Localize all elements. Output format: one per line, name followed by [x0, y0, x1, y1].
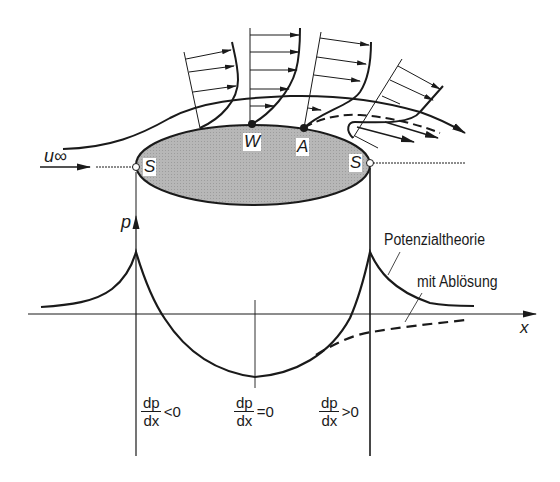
gradient-numerator: dp — [234, 394, 255, 411]
freestream-velocity-label: u∞ — [44, 146, 67, 167]
separation-pressure-curve — [316, 320, 466, 355]
inflection-point-label: W — [243, 133, 261, 151]
velocity-profile-1 — [184, 42, 238, 128]
x-axis-label: x — [520, 318, 529, 338]
separation-point-label: A — [296, 138, 309, 156]
flow-separation-diagram: u∞ S S W A p x Potenzialtheorie mit Ablö… — [0, 0, 560, 482]
gradient-numerator: dp — [319, 394, 340, 411]
potential-theory-legend: Potenzialtheorie — [384, 231, 485, 249]
gradient-label-negative: dp dx <0 — [141, 394, 181, 429]
front-stagnation-point — [133, 164, 140, 171]
rear-stagnation-point — [367, 160, 374, 167]
gradient-denominator: dx — [234, 411, 254, 429]
gradient-relation: =0 — [257, 403, 274, 420]
separation-point-A — [300, 124, 308, 132]
gradient-denominator: dx — [141, 411, 161, 429]
gradient-denominator: dx — [319, 411, 339, 429]
rear-stagnation-label: S — [349, 154, 362, 172]
velocity-profile-4-reversed — [348, 59, 443, 148]
potential-theory-leader — [388, 252, 400, 275]
gradient-relation: <0 — [164, 403, 181, 420]
gradient-relation: >0 — [342, 403, 359, 420]
gradient-label-positive: dp dx >0 — [319, 394, 359, 429]
gradient-numerator: dp — [141, 394, 162, 411]
pressure-axis-label: p — [121, 212, 131, 233]
flow-field — [40, 28, 465, 205]
separation-legend: mit Ablösung — [417, 273, 498, 291]
pressure-plot — [28, 168, 536, 456]
front-stagnation-label: S — [143, 158, 156, 176]
velocity-profile-3-at-A — [304, 32, 440, 133]
gradient-label-zero: dp dx =0 — [234, 394, 274, 429]
velocity-profile-2-at-W — [250, 28, 300, 124]
inflection-point-W — [248, 120, 256, 128]
